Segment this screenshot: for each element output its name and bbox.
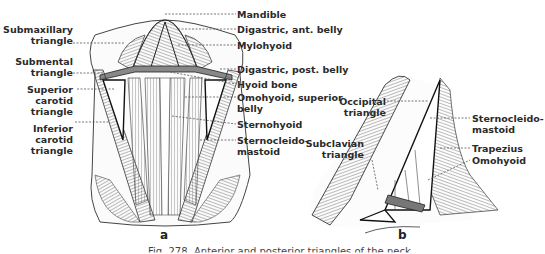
label-line: Mylohyoid bbox=[237, 40, 292, 51]
label-sternocleidomastoid-b: Sternocleido- mastoid bbox=[472, 113, 544, 135]
label-hyoid-bone: Hyoid bone bbox=[237, 79, 298, 90]
label-superior-carotid-triangle: Superior carotid triangle bbox=[27, 84, 73, 117]
label-sternocleidomastoid-a: Sternocleido- mastoid bbox=[237, 135, 309, 157]
label-line: belly bbox=[237, 103, 343, 114]
label-line: Sternocleido- bbox=[472, 113, 544, 124]
label-inferior-carotid-triangle: Inferior carotid triangle bbox=[31, 123, 73, 156]
panel-letter-b: b bbox=[398, 228, 407, 242]
label-line: Sternohyoid bbox=[237, 119, 302, 130]
label-line: Omohyoid, superior bbox=[237, 92, 343, 103]
label-line: Inferior bbox=[31, 123, 73, 134]
label-line: triangle bbox=[339, 107, 386, 118]
label-mylohyoid: Mylohyoid bbox=[237, 40, 292, 51]
label-subclavian-triangle: Subclavian triangle bbox=[306, 138, 364, 160]
label-omohyoid-superior-belly: Omohyoid, superior belly bbox=[237, 92, 343, 114]
label-line: carotid bbox=[27, 95, 73, 106]
label-line: carotid bbox=[31, 134, 73, 145]
label-line: Omohyoid bbox=[472, 155, 526, 166]
label-line: Digastric, post. belly bbox=[237, 64, 348, 75]
label-digastric-post-belly: Digastric, post. belly bbox=[237, 64, 348, 75]
label-line: triangle bbox=[31, 145, 73, 156]
label-occipital-triangle: Occipital triangle bbox=[339, 96, 386, 118]
label-submental-triangle: Submental triangle bbox=[15, 56, 73, 78]
label-line: triangle bbox=[15, 67, 73, 78]
label-line: Mandible bbox=[237, 9, 286, 20]
label-submaxillary-triangle: Submaxillary triangle bbox=[3, 24, 73, 46]
label-line: mastoid bbox=[472, 124, 544, 135]
label-line: Sternocleido- bbox=[237, 135, 309, 146]
label-line: Submental bbox=[15, 56, 73, 67]
label-omohyoid: Omohyoid bbox=[472, 155, 526, 166]
label-line: triangle bbox=[27, 106, 73, 117]
label-mandible: Mandible bbox=[237, 9, 286, 20]
label-digastric-ant-belly: Digastric, ant. belly bbox=[237, 24, 343, 35]
label-line: Submaxillary bbox=[3, 24, 73, 35]
label-line: Occipital bbox=[339, 96, 386, 107]
label-line: triangle bbox=[306, 149, 364, 160]
label-line: Subclavian bbox=[306, 138, 364, 149]
label-trapezius: Trapezius bbox=[472, 143, 523, 154]
label-line: Digastric, ant. belly bbox=[237, 24, 343, 35]
label-line: mastoid bbox=[237, 146, 309, 157]
label-line: Trapezius bbox=[472, 143, 523, 154]
label-line: Superior bbox=[27, 84, 73, 95]
label-sternohyoid: Sternohyoid bbox=[237, 119, 302, 130]
label-line: Hyoid bone bbox=[237, 79, 298, 90]
label-line: triangle bbox=[3, 35, 73, 46]
panel-letter-a: a bbox=[160, 228, 168, 242]
